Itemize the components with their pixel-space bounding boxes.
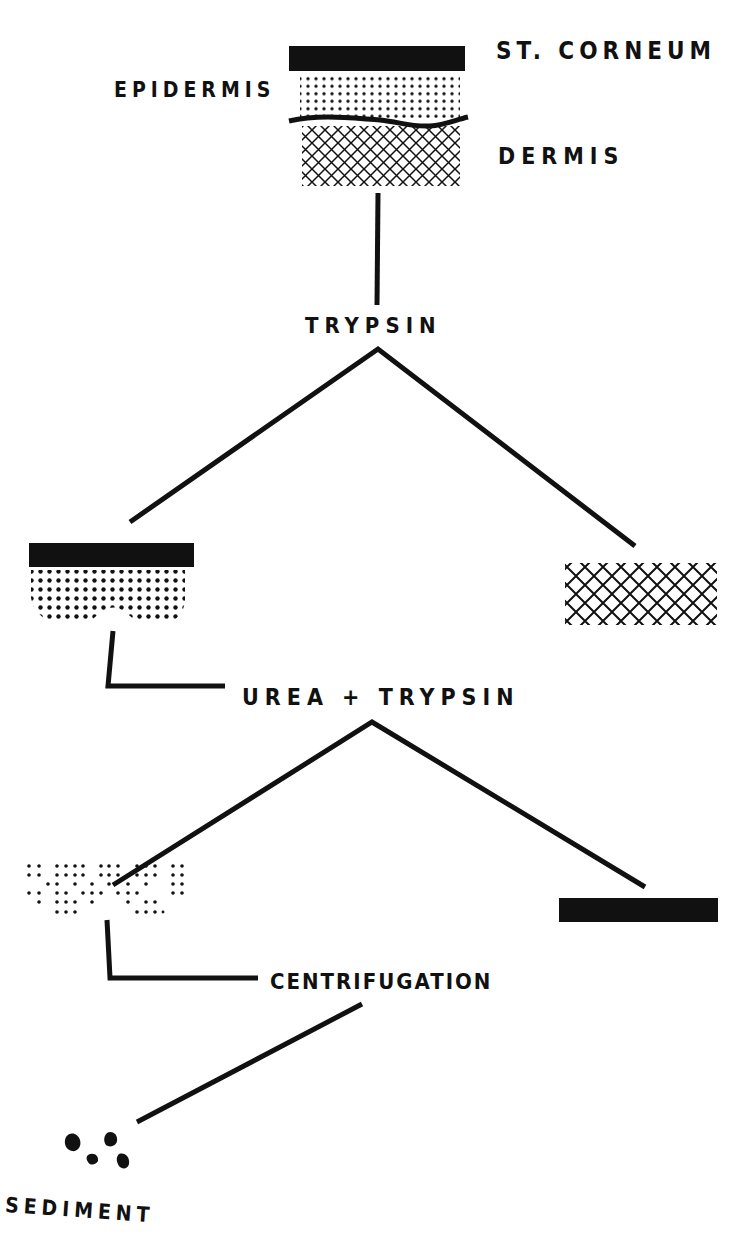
st-corneum-layer [289,46,465,71]
connector-to-urea-trypsin [108,631,225,686]
split-trypsin [130,349,635,546]
st-corneum-separated [559,898,718,922]
dermo-epidermal-junction [289,117,468,126]
skin-cross-section [289,46,468,186]
label-centrifugation: CENTRIFUGATION [270,969,492,994]
label-trypsin: TRYPSIN [305,313,442,338]
dermis-layer [302,126,460,186]
label-epidermis: EPIDERMIS [114,78,275,102]
split-urea-trypsin [113,722,645,887]
skin-separation-diagram [0,0,747,1247]
sediment-particles [65,1132,129,1168]
epidermis-layer [31,570,185,622]
connector-to-centrifugation [107,920,258,978]
st-corneum-layer [29,543,194,567]
epidermis-layer [300,75,460,118]
label-dermis: DERMIS [498,143,624,169]
connector-skin-to-trypsin [377,193,378,305]
epidermal-cells-dispersed [27,864,184,914]
connector-centrifugation-to-sediment [137,1004,362,1122]
label-urea-trypsin: UREA + TRYPSIN [242,684,519,710]
epidermis-with-corneum-sheet [29,543,194,622]
dermis-separated [565,563,717,625]
label-st-corneum: ST. CORNEUM [496,37,716,65]
